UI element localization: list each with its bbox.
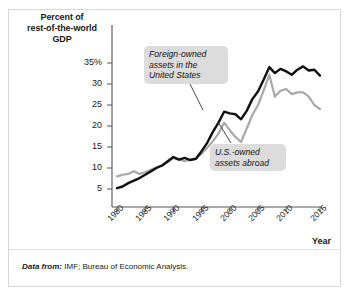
annotation-us-owned: U.S.-owned assets abroad bbox=[210, 144, 286, 171]
figure-container: Percent of rest-of-the-world GDP 35%3025… bbox=[0, 0, 349, 295]
y-tick-label: 10 bbox=[72, 162, 102, 172]
footer-divider bbox=[9, 249, 340, 250]
y-tick-label: 35% bbox=[72, 57, 102, 67]
y-tick-label: 15 bbox=[72, 141, 102, 151]
x-axis-title: Year bbox=[312, 236, 331, 246]
annotation-foreign-owned: Foreign-owned assets in the United State… bbox=[144, 46, 228, 84]
source-note-lead: Data from: bbox=[22, 262, 62, 271]
y-tick-label: 25 bbox=[72, 99, 102, 109]
source-note: Data from: IMF; Bureau of Economic Analy… bbox=[22, 262, 188, 271]
chart-plot-area bbox=[0, 0, 349, 295]
callout-leader-lines bbox=[187, 78, 231, 143]
y-tick-label: 5 bbox=[72, 183, 102, 193]
y-tick-label: 20 bbox=[72, 120, 102, 130]
y-tick-label: 30 bbox=[72, 78, 102, 88]
source-note-text: IMF; Bureau of Economic Analysis. bbox=[64, 262, 188, 271]
